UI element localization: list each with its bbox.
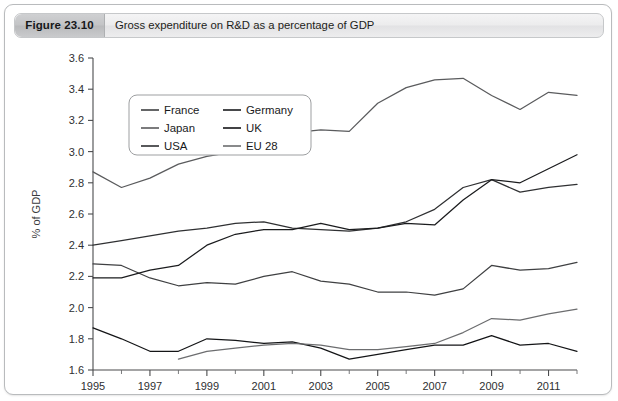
y-tick-label: 1.6	[69, 364, 84, 376]
figure-title: Gross expenditure on R&D as a percentage…	[115, 14, 374, 37]
y-tick-label: 2.2	[69, 270, 84, 282]
y-tick-label: 2.6	[69, 208, 84, 220]
legend-label-germany[interactable]: Germany	[246, 104, 293, 116]
x-tick-label: 1995	[81, 380, 105, 391]
legend-label-japan[interactable]: Japan	[164, 122, 195, 134]
x-tick-label: 2007	[422, 380, 446, 391]
x-tick-label: 1997	[138, 380, 162, 391]
chart-area: 1.61.82.02.22.42.62.83.03.23.43.61995199…	[14, 43, 604, 391]
y-tick-label: 2.4	[69, 239, 84, 251]
legend-label-france[interactable]: France	[164, 104, 199, 116]
line-chart: 1.61.82.02.22.42.62.83.03.23.43.61995199…	[14, 43, 604, 391]
screenshot-root: Figure 23.10 Gross expenditure on R&D as…	[0, 0, 618, 401]
y-tick-label: 3.6	[69, 52, 84, 64]
series-line-eu-28[interactable]	[178, 309, 577, 359]
x-tick-label: 2003	[309, 380, 333, 391]
x-tick-label: 2011	[537, 380, 561, 391]
legend-label-usa[interactable]: USA	[164, 140, 188, 152]
x-tick-label: 2005	[365, 380, 389, 391]
figure-card: Figure 23.10 Gross expenditure on R&D as…	[4, 4, 612, 395]
legend-label-uk[interactable]: UK	[246, 122, 262, 134]
series-line-usa[interactable]	[93, 180, 577, 246]
chart-legend: FranceJapanUSAGermanyUKEU 28	[129, 95, 311, 155]
y-tick-label: 3.2	[69, 114, 84, 126]
x-tick-label: 2001	[252, 380, 276, 391]
y-tick-label: 1.8	[69, 333, 84, 345]
y-tick-label: 2.8	[69, 177, 84, 189]
y-tick-label: 2.0	[69, 302, 84, 314]
x-tick-label: 1999	[195, 380, 219, 391]
series-line-germany[interactable]	[93, 155, 577, 278]
x-tick-label: 2009	[479, 380, 503, 391]
y-axis-title: % of GDP	[30, 190, 42, 239]
series-line-uk[interactable]	[93, 328, 577, 359]
y-tick-label: 3.4	[69, 83, 84, 95]
legend-label-eu-28[interactable]: EU 28	[246, 140, 278, 152]
y-tick-label: 3.0	[69, 146, 84, 158]
figure-number-badge: Figure 23.10	[15, 14, 105, 37]
figure-header-bar: Figure 23.10 Gross expenditure on R&D as…	[14, 13, 604, 38]
